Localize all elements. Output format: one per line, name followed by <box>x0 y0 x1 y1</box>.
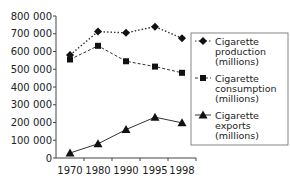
y-tick-label: 700 000 <box>11 28 52 39</box>
x-tick-label: 1970 <box>57 165 82 176</box>
series-square <box>67 43 185 76</box>
legend: Cigaretteproduction(millions)Cigaretteco… <box>191 33 288 145</box>
y-tick-label: 200 000 <box>11 117 52 128</box>
x-axis: 19701980199019951998 <box>56 158 196 176</box>
square-marker <box>200 75 206 81</box>
series-group <box>66 23 187 157</box>
triangle-marker <box>151 113 160 121</box>
square-marker <box>179 70 185 76</box>
triangle-marker <box>94 139 103 147</box>
diamond-marker <box>122 29 130 37</box>
triangle-marker <box>66 149 75 157</box>
x-tick-label: 1995 <box>142 165 167 176</box>
x-tick-label: 1980 <box>85 165 110 176</box>
triangle-marker <box>122 125 131 133</box>
diamond-marker <box>178 34 186 42</box>
legend-label: (millions) <box>215 93 259 104</box>
series-diamond <box>66 23 186 59</box>
square-marker <box>95 43 101 49</box>
y-tick-label: 600 000 <box>11 46 52 57</box>
x-tick-label: 1990 <box>113 165 138 176</box>
square-marker <box>123 58 129 64</box>
legend-label: (millions) <box>215 56 259 67</box>
legend-label: (millions) <box>215 130 259 141</box>
y-tick-label: 100 000 <box>11 135 52 146</box>
y-axis: 0100 000200 000300 000400 000500 000600 … <box>11 11 56 164</box>
y-tick-label: 500 000 <box>11 64 52 75</box>
square-marker <box>67 56 73 62</box>
y-tick-label: 0 <box>46 153 52 164</box>
line-chart: 0100 000200 000300 000400 000500 000600 … <box>0 0 290 180</box>
x-tick-label: 1998 <box>169 165 194 176</box>
series-triangle <box>66 113 187 157</box>
square-marker <box>152 64 158 70</box>
y-tick-label: 800 000 <box>11 11 52 22</box>
y-tick-label: 300 000 <box>11 99 52 110</box>
diamond-marker <box>151 23 159 31</box>
y-tick-label: 400 000 <box>11 82 52 93</box>
